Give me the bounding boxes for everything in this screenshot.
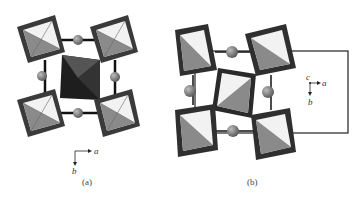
axis-label-b-b: b	[308, 97, 313, 107]
octahedron-b-br	[251, 108, 296, 160]
central-octahedron-b	[212, 68, 256, 118]
octahedron-a-tr	[90, 15, 138, 63]
central-octahedron-a	[60, 55, 100, 100]
panel-a: a b (a)	[17, 15, 140, 187]
caption-a: (a)	[82, 177, 92, 187]
axis-label-b: b	[72, 166, 77, 176]
octahedron-a-br	[94, 89, 140, 137]
octahedron-b-tr	[245, 24, 296, 76]
octahedron-b-bl	[175, 104, 218, 157]
octahedron-b-tl	[175, 24, 217, 76]
axis-indicator-a: a b	[72, 146, 99, 176]
axis-label-a-b: a	[322, 78, 327, 88]
octahedron-a-tl	[17, 15, 65, 63]
panel-b: c a b (b)	[175, 24, 348, 187]
axis-indicator-b: c a b	[306, 72, 327, 107]
crystal-structure-figure: a b (a)	[0, 0, 361, 199]
axis-label-a: a	[94, 146, 99, 156]
octahedron-a-bl	[17, 89, 65, 137]
caption-b: (b)	[247, 177, 258, 187]
axis-label-c: c	[306, 72, 310, 82]
